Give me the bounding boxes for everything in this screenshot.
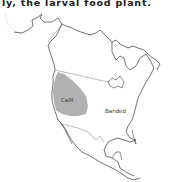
baja-california: [60, 122, 72, 144]
calif-label: Calif.: [61, 97, 75, 103]
banded-label: Banded: [105, 108, 126, 114]
globe-edge-arc: [6, 12, 22, 34]
alaska-border: [48, 24, 62, 42]
great-lakes: [108, 76, 124, 88]
calif-range-shading: [53, 72, 88, 116]
north-america-range-map: [0, 0, 178, 182]
us-mexico-border: [62, 124, 104, 142]
florida: [132, 130, 136, 144]
